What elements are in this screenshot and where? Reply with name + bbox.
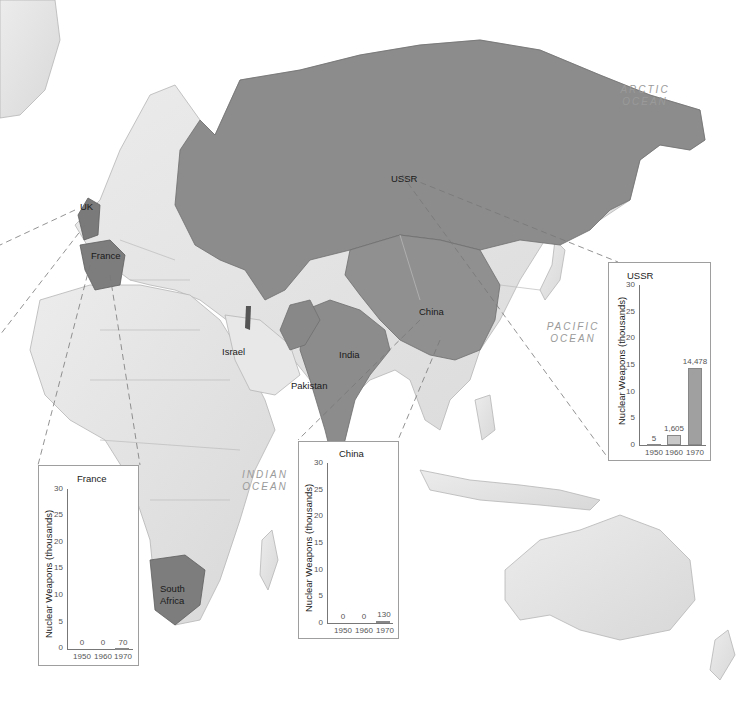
bar-1950: [647, 444, 661, 446]
y-tick: 0: [619, 440, 635, 449]
bar-1970: [376, 621, 390, 623]
israel-label: Israel: [222, 346, 245, 357]
bar-value-1970: 130: [369, 610, 399, 619]
y-tick: 0: [47, 643, 63, 652]
india-label: India: [339, 349, 360, 360]
ocean-label-line: INDIAN: [230, 469, 300, 481]
y-tick: 20: [307, 511, 323, 520]
new-zealand-landmass: [710, 630, 735, 680]
china-chart: China Nuclear Weapons (thousands) 0 5 10…: [298, 441, 399, 639]
y-tick: 10: [619, 387, 635, 396]
south-africa-label: South Africa: [160, 583, 185, 607]
bar-1970: [115, 648, 129, 650]
france-label: France: [91, 250, 121, 261]
y-tick: 20: [619, 333, 635, 342]
south-africa-label-line: Africa: [160, 595, 185, 607]
y-tick: 20: [47, 537, 63, 546]
ocean-label-line: OCEAN: [528, 333, 618, 345]
y-tick: 25: [307, 485, 323, 494]
x-tick: 1970: [111, 652, 135, 661]
ocean-label-line: ARCTIC: [600, 84, 690, 96]
australia-landmass: [505, 515, 695, 640]
chart-title: China: [339, 448, 364, 459]
ocean-label-line: PACIFIC: [528, 321, 618, 333]
bar-value-1950: 5: [639, 434, 669, 443]
ocean-label-line: OCEAN: [230, 481, 300, 493]
israel-region: [245, 306, 251, 330]
y-tick: 30: [307, 458, 323, 467]
x-tick: 1970: [683, 448, 707, 457]
y-tick: 0: [307, 618, 323, 627]
bar-1970: [688, 368, 702, 445]
y-tick: 5: [619, 413, 635, 422]
japan-landmass: [540, 240, 565, 300]
philippines-landmass: [475, 395, 495, 440]
y-tick: 10: [47, 590, 63, 599]
chart-title: France: [77, 473, 107, 484]
ocean-label-line: OCEAN: [600, 96, 690, 108]
madagascar-landmass: [260, 530, 278, 590]
bar-1960: [667, 435, 681, 445]
y-tick: 15: [47, 563, 63, 572]
greenland-landmass: [0, 0, 60, 118]
bar-value-1970: 14,478: [680, 357, 710, 366]
y-axis: [67, 489, 68, 649]
south-africa-label-line: South: [160, 583, 185, 595]
france-chart: France Nuclear Weapons (thousands) 0 5 1…: [38, 465, 139, 666]
ussr-label: USSR: [391, 173, 417, 184]
bar-value-1970: 70: [108, 638, 138, 647]
y-axis: [327, 463, 328, 623]
x-tick: 1970: [373, 626, 397, 635]
pakistan-label: Pakistan: [291, 380, 327, 391]
uk-label: UK: [80, 201, 93, 212]
y-tick: 30: [619, 280, 635, 289]
y-tick: 15: [619, 360, 635, 369]
china-label: China: [419, 306, 444, 317]
indian-ocean-label: INDIAN OCEAN: [230, 469, 300, 493]
ussr-chart: USSR Nuclear Weapons (thousands) 0 5 10 …: [608, 262, 711, 461]
bar-value-1960: 1,605: [659, 424, 689, 433]
y-axis: [639, 285, 640, 445]
y-tick: 10: [307, 565, 323, 574]
y-tick: 15: [307, 538, 323, 547]
arctic-ocean-label: ARCTIC OCEAN: [600, 84, 690, 108]
y-tick: 5: [47, 617, 63, 626]
y-tick: 5: [307, 591, 323, 600]
y-tick: 25: [619, 307, 635, 316]
x-axis: [327, 623, 393, 624]
y-tick: 25: [47, 510, 63, 519]
y-tick: 30: [47, 484, 63, 493]
indonesia-landmass: [420, 470, 600, 510]
pacific-ocean-label: PACIFIC OCEAN: [528, 321, 618, 345]
